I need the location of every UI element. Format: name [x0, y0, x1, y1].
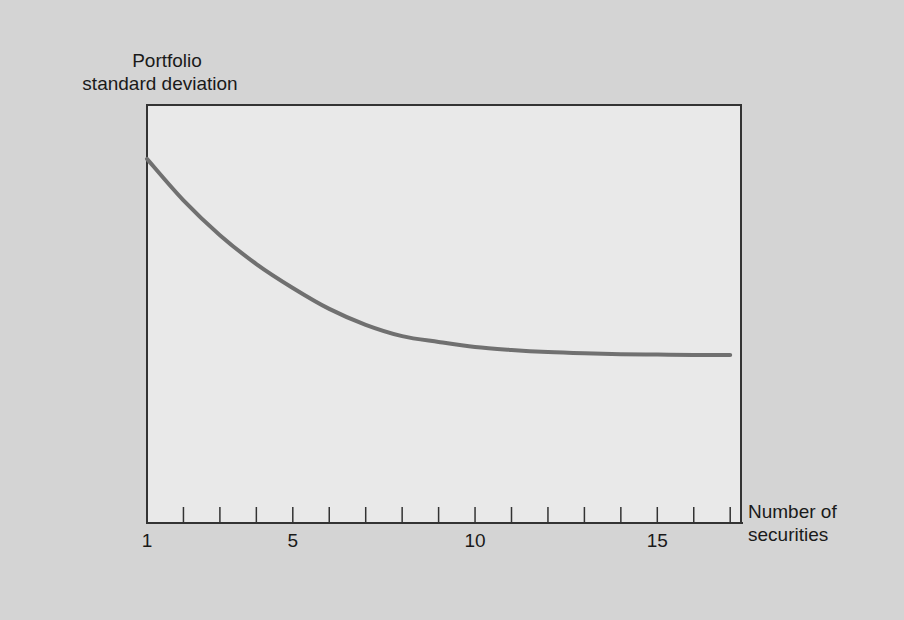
x-axis-label-line1: Number of — [748, 500, 837, 523]
y-axis-label-line1: Portfolio — [92, 49, 242, 72]
chart-figure: Portfolio standard deviation Number of s… — [0, 0, 904, 620]
x-tick-label-15: 15 — [647, 530, 668, 552]
series-line — [147, 159, 730, 355]
x-tick-label-10: 10 — [464, 530, 485, 552]
y-axis-label-line2: standard deviation — [60, 72, 260, 95]
x-axis-label: Number of securities — [748, 500, 837, 546]
x-tick-label-1: 1 — [142, 530, 153, 552]
x-axis-label-line2: securities — [748, 523, 837, 546]
x-tick-label-5: 5 — [288, 530, 299, 552]
